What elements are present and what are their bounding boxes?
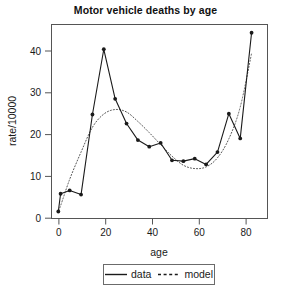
legend-solid-line-icon (105, 270, 127, 279)
y-axis: 0 10 20 30 40 (30, 46, 52, 224)
legend-label-data: data (131, 269, 151, 280)
y-tick-label-20: 20 (30, 129, 42, 140)
chart-figure: Motor vehicle deaths by age 0 10 20 30 4… (0, 0, 291, 295)
y-tick-label-0: 0 (35, 213, 41, 224)
y-axis-title: rate/10000 (6, 96, 18, 146)
y-tick-label-30: 30 (30, 87, 42, 98)
data-point-marker (227, 112, 231, 116)
x-tick-label-60: 60 (194, 227, 206, 238)
data-point-marker (79, 193, 83, 197)
data-polyline (58, 33, 251, 212)
data-point-marker (159, 141, 163, 145)
y-tick-label-10: 10 (30, 171, 42, 182)
data-point-marker (136, 138, 140, 142)
data-point-marker (113, 97, 117, 101)
data-point-marker (193, 157, 197, 161)
data-point-marker (147, 145, 151, 149)
x-axis: 0 20 40 60 80 (56, 219, 252, 239)
data-point-marker (59, 192, 63, 196)
data-point-marker (238, 137, 242, 141)
plot-canvas: 0 10 20 30 40 rate/10000 0 20 40 60 80 a… (0, 0, 291, 295)
data-point-marker (125, 122, 129, 126)
plot-frame (52, 25, 268, 219)
data-point-marker (91, 113, 95, 117)
legend-entry-model: model (158, 269, 213, 280)
data-point-marker (68, 189, 72, 193)
x-tick-label-20: 20 (100, 227, 112, 238)
legend-dotted-line-icon (158, 270, 180, 279)
data-point-marker (181, 159, 185, 163)
x-axis-title: age (150, 246, 168, 258)
data-point-marker (216, 150, 220, 154)
x-tick-label-40: 40 (147, 227, 159, 238)
data-point-marker (56, 210, 60, 214)
series-data-line (58, 33, 251, 212)
chart-legend: data model (103, 264, 215, 285)
data-point-marker (250, 31, 254, 35)
series-data-markers (56, 31, 253, 214)
data-point-marker (204, 163, 208, 167)
legend-entry-data: data (105, 269, 151, 280)
legend-label-model: model (184, 269, 213, 280)
y-tick-label-40: 40 (30, 46, 42, 57)
data-point-marker (102, 47, 106, 51)
x-tick-label-80: 80 (241, 227, 253, 238)
x-tick-label-0: 0 (56, 227, 62, 238)
data-point-marker (170, 158, 174, 162)
model-curve (58, 53, 251, 210)
series-model-line (58, 53, 251, 210)
